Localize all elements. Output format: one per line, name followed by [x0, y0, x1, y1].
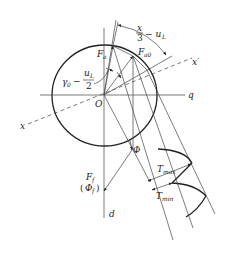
label-gamma-minus: −	[73, 76, 81, 86]
label-angle-top-sub: L	[161, 33, 166, 40]
vector-fa0	[104, 56, 133, 95]
label-tmax-sub: max	[163, 168, 176, 175]
inner-arrow-1	[106, 68, 113, 71]
label-q: q	[188, 90, 194, 100]
slanted-line-3	[133, 56, 193, 228]
label-gamma-sub: 0	[67, 81, 71, 88]
label-x-prime: x′	[192, 57, 199, 67]
vector-ff	[104, 150, 132, 191]
label-angle-top-rest: − u	[145, 29, 161, 39]
tmin-curve-lower	[186, 196, 206, 217]
label-phi-f-open: (	[80, 183, 84, 193]
tmin-dimension	[152, 183, 172, 190]
slanted-line-2	[104, 95, 150, 182]
label-origin-o: O	[95, 99, 103, 109]
label-fa-sub: a	[103, 53, 107, 60]
tmax-curve	[158, 149, 192, 163]
label-gamma-num-sub: L	[89, 72, 94, 79]
label-d: d	[109, 209, 115, 219]
line-o-to-upper-right	[104, 56, 172, 95]
label-angle-top-num: x	[137, 23, 142, 33]
label-tmin-sub: min	[162, 195, 174, 202]
phasor-diagram: x 3 − u L F a F a0 γ 0 − u L 2 x′ q O x …	[0, 0, 231, 257]
label-x: x	[20, 121, 25, 131]
label-angle-top-den: 3	[137, 33, 143, 43]
label-gamma-den: 2	[86, 81, 92, 91]
label-phi: Φ	[133, 145, 140, 155]
label-fa0-sub: a0	[144, 51, 152, 58]
label-phi-f-close: )	[96, 183, 100, 193]
